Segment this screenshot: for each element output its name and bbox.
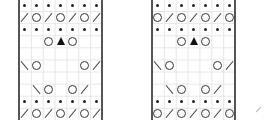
slash-icon — [80, 85, 88, 94]
chart-cell — [66, 84, 78, 96]
chart-cell — [31, 84, 43, 96]
slash-icon — [45, 13, 53, 22]
chart-cell — [211, 84, 223, 96]
purl-dot-icon — [71, 4, 74, 7]
yarn-over-circle-icon — [68, 85, 77, 94]
yarn-over-circle-icon — [201, 13, 210, 22]
purl-dot-icon — [156, 28, 159, 31]
chart-cell — [199, 108, 211, 120]
chart-cell — [188, 0, 200, 11]
yarn-over-circle-icon — [153, 13, 162, 22]
purl-dot-icon — [204, 28, 207, 31]
yarn-over-circle-icon — [44, 37, 53, 46]
chart-cell — [55, 96, 67, 108]
yarn-over-circle-icon — [80, 61, 89, 70]
chart-cell — [176, 0, 188, 11]
chart-cell — [223, 11, 235, 23]
chart-cell — [223, 60, 235, 72]
yarn-over-circle-icon — [201, 85, 210, 94]
chart-cell — [188, 35, 200, 47]
chart-cell — [164, 96, 176, 108]
purl-dot-icon — [35, 4, 38, 7]
chart-cell — [43, 84, 55, 96]
purl-dot-icon — [180, 4, 183, 7]
slash-icon — [68, 13, 76, 22]
purl-dot-icon — [168, 100, 171, 103]
purl-dot-icon — [83, 28, 86, 31]
yarn-over-circle-icon — [201, 109, 210, 118]
yarn-over-circle-icon — [213, 61, 222, 70]
chart-cell — [223, 23, 235, 35]
chart-cell — [176, 108, 188, 120]
knitting-chart-2 — [152, 0, 235, 120]
chart-cell — [90, 96, 102, 108]
chart-cell — [176, 96, 188, 108]
yarn-over-circle-icon — [56, 13, 65, 22]
purl-dot-icon — [47, 4, 50, 7]
slash-icon — [45, 109, 53, 118]
chart-cell — [66, 96, 78, 108]
chart-cell — [152, 0, 164, 11]
purl-dot-icon — [95, 100, 98, 103]
purl-dot-icon — [180, 100, 183, 103]
chart-cell — [43, 23, 55, 35]
purl-dot-icon — [228, 100, 231, 103]
purl-dot-icon — [59, 28, 62, 31]
purl-dot-icon — [83, 4, 86, 7]
chart-cell — [176, 11, 188, 23]
purl-dot-icon — [228, 28, 231, 31]
chart-cell — [223, 96, 235, 108]
chart-cell — [152, 11, 164, 23]
chart-cell — [188, 23, 200, 35]
chart-cell — [188, 11, 200, 23]
purl-dot-icon — [192, 4, 195, 7]
chart-cell — [152, 60, 164, 72]
chart-cell — [66, 23, 78, 35]
purl-dot-icon — [23, 4, 26, 7]
purl-dot-icon — [204, 100, 207, 103]
chart-cell — [176, 23, 188, 35]
chart-cell — [78, 84, 90, 96]
chart-cell — [188, 108, 200, 120]
purl-dot-icon — [59, 4, 62, 7]
purl-dot-icon — [35, 28, 38, 31]
chart-cell — [90, 11, 102, 23]
yarn-over-circle-icon — [68, 37, 77, 46]
chart-cell — [43, 96, 55, 108]
slash-icon — [92, 61, 100, 70]
chart-cell — [55, 11, 67, 23]
purl-dot-icon — [71, 100, 74, 103]
chart-cell — [78, 96, 90, 108]
purl-dot-icon — [180, 28, 183, 31]
purl-dot-icon — [23, 28, 26, 31]
chart-cell — [176, 35, 188, 47]
purl-dot-icon — [168, 4, 171, 7]
yarn-over-circle-icon — [80, 109, 89, 118]
slash-icon — [190, 13, 198, 22]
chart-cell — [152, 23, 164, 35]
slash-icon — [21, 13, 29, 22]
slash-icon — [92, 13, 100, 22]
chart-cell — [164, 84, 176, 96]
yarn-over-circle-icon — [225, 13, 234, 22]
chart-cell — [164, 60, 176, 72]
backslash-icon — [33, 85, 41, 94]
chart-cell — [164, 23, 176, 35]
chart-cell — [19, 60, 31, 72]
chart-cell — [199, 11, 211, 23]
slash-icon — [166, 109, 174, 118]
purl-dot-icon — [216, 28, 219, 31]
chart-cell — [78, 108, 90, 120]
chart-cell — [199, 35, 211, 47]
yarn-over-circle-icon — [177, 37, 186, 46]
chart-cell — [164, 0, 176, 11]
chart-cell — [164, 11, 176, 23]
purl-dot-icon — [156, 100, 159, 103]
chart-cell — [211, 108, 223, 120]
yarn-over-circle-icon — [177, 109, 186, 118]
chart-cell — [176, 84, 188, 96]
chart-cell — [66, 0, 78, 11]
purl-dot-icon — [228, 4, 231, 7]
knitting-chart-1 — [19, 0, 102, 120]
chart-cell — [31, 60, 43, 72]
